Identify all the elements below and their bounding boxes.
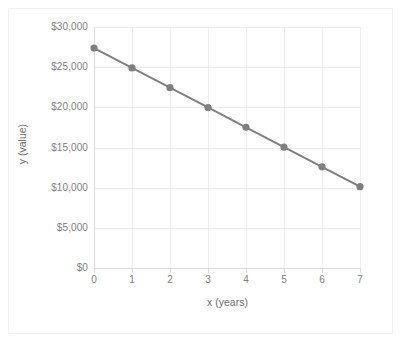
data-point-marker bbox=[318, 163, 325, 170]
data-series-line bbox=[0, 0, 401, 342]
data-point-marker bbox=[204, 104, 211, 111]
data-point-marker bbox=[242, 124, 249, 131]
chart-container: $0$5,000$10,000$15,000$20,000$25,000$30,… bbox=[0, 0, 401, 342]
x-axis-title: x (years) bbox=[94, 296, 361, 308]
data-point-marker bbox=[280, 143, 287, 150]
y-axis-title: y (value) bbox=[16, 104, 28, 184]
data-point-marker bbox=[128, 64, 135, 71]
data-point-marker bbox=[166, 84, 173, 91]
data-point-marker bbox=[90, 44, 97, 51]
data-point-marker bbox=[356, 183, 363, 190]
